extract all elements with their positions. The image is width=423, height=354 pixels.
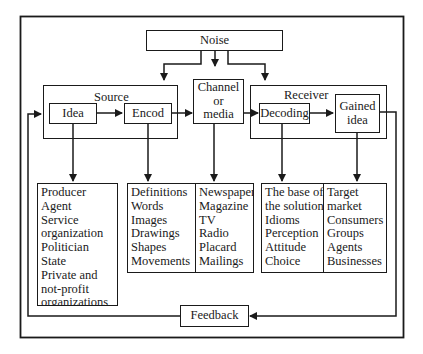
channel-box: Channel or media [193, 79, 244, 124]
channel-label-line3: media [203, 108, 234, 122]
list-item: Agents [327, 241, 386, 255]
list-item: Magazine [199, 200, 253, 214]
list-item: The base of [265, 186, 323, 200]
receiver-label: Receiver [284, 89, 328, 102]
list-item: Agent [41, 200, 117, 214]
list-item: Choice [265, 255, 323, 269]
noise-box: Noise [146, 30, 283, 51]
idea-examples-list: Producer Agent Service organization Poli… [37, 183, 118, 306]
list-item: the solution [265, 200, 323, 214]
encode-examples-list: Definitions Words Images Drawings Shapes… [127, 183, 196, 273]
list-item: Shapes [131, 241, 195, 255]
list-item: Radio [199, 227, 253, 241]
list-item: Idioms [265, 214, 323, 228]
channel-examples-list: Newspaper Magazine TV Radio Placard Mail… [195, 183, 254, 273]
list-item: TV [199, 214, 253, 228]
list-item: Perception [265, 227, 323, 241]
list-item: Definitions [131, 186, 195, 200]
list-item: Businesses [327, 255, 386, 269]
list-item: Target [327, 186, 386, 200]
idea-box: Idea [49, 103, 97, 124]
list-item: organizations [41, 296, 117, 306]
list-item: not-profit [41, 283, 117, 297]
encode-label: Encod [132, 107, 164, 121]
list-item: Newspaper [199, 186, 253, 200]
list-item: Drawings [131, 227, 195, 241]
list-item: Politician [41, 241, 117, 255]
list-item: Groups [327, 227, 386, 241]
list-item: State [41, 255, 117, 269]
list-item: Consumers [327, 214, 386, 228]
list-item: Attitude [265, 241, 323, 255]
idea-label: Idea [62, 107, 84, 121]
list-item: organization [41, 227, 117, 241]
list-item: Images [131, 214, 195, 228]
list-item: Producer [41, 186, 117, 200]
channel-label-line1: Channel [198, 81, 240, 95]
feedback-label: Feedback [191, 309, 239, 323]
encode-box: Encod [124, 103, 172, 124]
list-item: market [327, 200, 386, 214]
noise-label: Noise [200, 34, 229, 48]
decoding-examples-list: The base of the solution Idioms Percepti… [261, 183, 324, 273]
decoding-box: Decoding [259, 103, 310, 124]
gained-idea-examples-list: Target market Consumers Groups Agents Bu… [323, 183, 387, 273]
gained-idea-box: Gained idea [335, 94, 380, 133]
list-item: Movements [131, 255, 195, 269]
channel-label-line2: or [213, 95, 223, 109]
feedback-box: Feedback [180, 305, 249, 327]
gained-idea-label-line1: Gained [339, 100, 375, 114]
list-item: Private and [41, 269, 117, 283]
list-item: Mailings [199, 255, 253, 269]
decoding-label: Decoding [260, 107, 309, 121]
list-item: Placard [199, 241, 253, 255]
gained-idea-label-line2: idea [347, 114, 368, 128]
list-item: Service [41, 214, 117, 228]
list-item: Words [131, 200, 195, 214]
